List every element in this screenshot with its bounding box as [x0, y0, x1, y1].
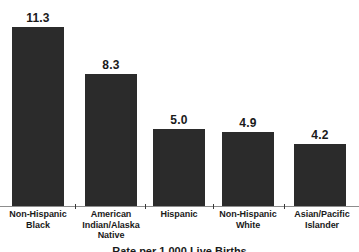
bar-rect[interactable]: [85, 74, 137, 207]
category-label-line: American: [76, 209, 146, 220]
category-label-asian-pacific-islander: Asian/Pacific Islander: [288, 209, 356, 230]
category-label-american-indian-alaska-native: American Indian/Alaska Native: [76, 209, 146, 241]
category-label-line: Hispanic: [147, 209, 211, 220]
category-label-line: Islander: [288, 220, 356, 231]
category-label-line: Non-Hispanic: [4, 209, 72, 220]
bar-value-label: 4.2: [294, 129, 346, 142]
bar-value-label: 8.3: [85, 59, 137, 72]
bar-rect[interactable]: [294, 144, 346, 207]
category-label-line: White: [214, 220, 282, 231]
bar-group-non-hispanic-white[interactable]: 4.9: [222, 0, 274, 207]
category-label-line: Asian/Pacific: [288, 209, 356, 220]
category-label-non-hispanic-black: Non-Hispanic Black: [4, 209, 72, 230]
bar-group-american-indian-alaska-native[interactable]: 8.3: [85, 0, 137, 207]
plot-area: 11.3 8.3 5.0 4.9 4.2: [0, 0, 359, 207]
x-axis-baseline: [0, 206, 359, 207]
chart-caption-text: Rate per 1,000 Live Births: [0, 245, 359, 252]
bar-value-label: 5.0: [153, 114, 205, 127]
bar-group-hispanic[interactable]: 5.0: [153, 0, 205, 207]
bar-group-asian-pacific-islander[interactable]: 4.2: [294, 0, 346, 207]
bar-rect[interactable]: [222, 132, 274, 207]
chart-caption-clipped: Rate per 1,000 Live Births: [0, 245, 359, 252]
category-label-line: Indian/Alaska: [76, 220, 146, 231]
category-label-hispanic: Hispanic: [147, 209, 211, 220]
bar-group-non-hispanic-black[interactable]: 11.3: [12, 0, 64, 207]
bar-rect[interactable]: [12, 27, 64, 207]
category-label-non-hispanic-white: Non-Hispanic White: [214, 209, 282, 230]
category-label-line: Native: [76, 230, 146, 241]
bar-rect[interactable]: [153, 129, 205, 207]
bar-value-label: 11.3: [12, 12, 64, 25]
category-label-line: Black: [4, 220, 72, 231]
bar-value-label: 4.9: [222, 117, 274, 130]
bar-chart: 11.3 8.3 5.0 4.9 4.2 Non-Hispa: [0, 0, 359, 252]
category-label-line: Non-Hispanic: [214, 209, 282, 220]
x-axis-category-labels: Non-Hispanic Black American Indian/Alask…: [0, 209, 359, 243]
